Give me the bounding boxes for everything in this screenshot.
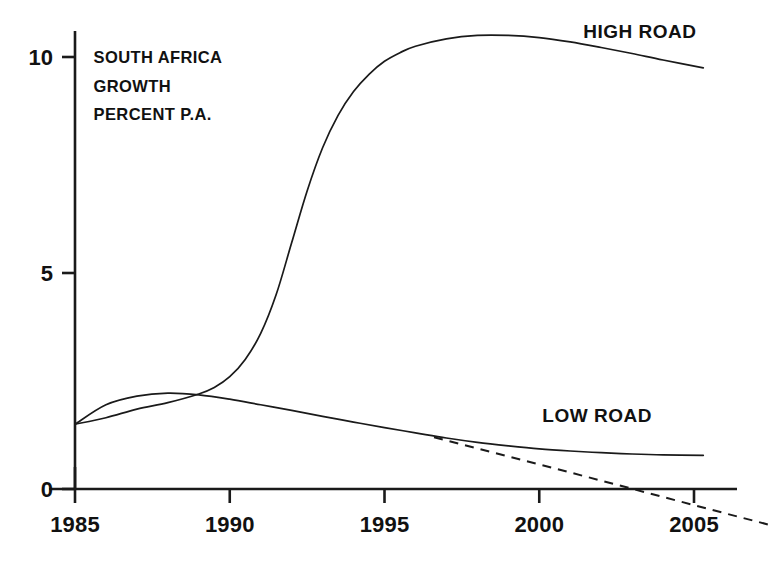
x-axis-tick-labels: 19851990199520002005 [50,512,719,537]
chart-container: 0510 19851990199520002005 HIGH ROADLOW R… [0,0,774,561]
y-axis-tick-labels: 0510 [29,45,53,502]
x-tick-label-2000: 2000 [514,512,564,537]
series-label-low-road: LOW ROAD [542,405,652,426]
caption-line-3: PERCENT P.A. [94,105,212,123]
series-line-low-road-downside [434,437,774,526]
x-axis-ticks [75,467,694,503]
growth-line-chart: 0510 19851990199520002005 HIGH ROADLOW R… [0,0,774,561]
chart-caption-block: SOUTH AFRICAGROWTHPERCENT P.A. [94,48,223,122]
x-tick-label-2005: 2005 [669,512,719,537]
y-axis-ticks [62,57,75,489]
x-tick-label-1995: 1995 [360,512,410,537]
y-tick-label-0: 0 [41,477,53,502]
series-labels-group: HIGH ROADLOW ROAD [542,21,696,426]
y-tick-label-10: 10 [29,45,53,70]
caption-line-1: SOUTH AFRICA [94,48,223,66]
y-tick-label-5: 5 [41,261,53,286]
x-tick-label-1985: 1985 [50,512,100,537]
caption-line-2: GROWTH [94,77,172,95]
x-tick-label-1990: 1990 [205,512,255,537]
series-label-high-road: HIGH ROAD [583,21,696,42]
